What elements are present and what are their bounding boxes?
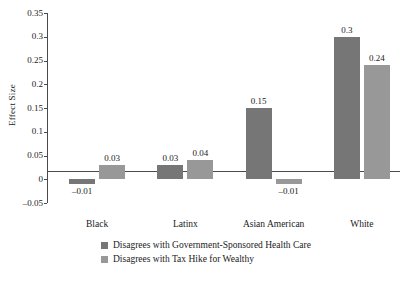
bar-latinx-series2 — [187, 160, 213, 179]
y-axis-tick-mark — [44, 84, 47, 85]
bar-value-label: 0.03 — [90, 154, 134, 163]
legend-swatch-icon — [101, 242, 108, 249]
bar-asian-american-series1 — [246, 108, 272, 179]
y-axis-tick-label: 0 — [7, 175, 43, 184]
y-axis-tick-mark — [44, 179, 47, 180]
y-axis-tick-mark — [44, 132, 47, 133]
y-axis-tick-mark — [44, 108, 47, 109]
bar-value-label: 0.15 — [237, 97, 281, 106]
bar-value-label: –0.01 — [60, 187, 104, 196]
y-axis-tick-mark — [44, 13, 47, 14]
bar-black-series2 — [99, 165, 125, 179]
bar-latinx-series1 — [157, 165, 183, 179]
legend-item: Disagrees with Government-Sponsored Heal… — [101, 238, 311, 252]
bar-chart-figure: Effect Size 0.350.30.250.20.150.10.050–0… — [0, 0, 412, 281]
y-axis-tick-label: 0.35 — [7, 9, 43, 18]
legend-label: Disagrees with Tax Hike for Wealthy — [113, 254, 254, 265]
legend: Disagrees with Government-Sponsored Heal… — [101, 238, 311, 266]
y-axis-tick-label: 0.3 — [7, 32, 43, 41]
y-axis-tick-label: 0.15 — [7, 104, 43, 113]
y-axis-tick-label: 0.2 — [7, 80, 43, 89]
bar-value-label: 0.3 — [325, 26, 369, 35]
plot-area: 0.350.30.250.20.150.10.050–0.05 –0.010.0… — [47, 13, 400, 203]
bar-white-series2 — [364, 65, 390, 179]
bar-value-label: –0.01 — [267, 187, 311, 196]
y-axis-tick-mark — [44, 37, 47, 38]
y-axis-tick-label: –0.05 — [7, 199, 43, 208]
y-axis-tick-label: 0.25 — [7, 56, 43, 65]
y-axis-tick-mark — [44, 203, 47, 204]
bar-value-label: 0.04 — [178, 149, 222, 158]
bar-black-series1 — [69, 179, 95, 184]
y-axis-tick-mark — [44, 156, 47, 157]
bar-asian-american-series2 — [276, 179, 302, 184]
y-axis-tick-mark — [44, 61, 47, 62]
y-axis-tick-label: 0.1 — [7, 127, 43, 136]
legend-label: Disagrees with Government-Sponsored Heal… — [113, 240, 311, 251]
y-axis-line — [47, 13, 48, 203]
y-axis-tick-label: 0.05 — [7, 151, 43, 160]
x-axis-category-label: White — [302, 219, 412, 230]
legend-swatch-icon — [101, 256, 108, 263]
legend-item: Disagrees with Tax Hike for Wealthy — [101, 252, 311, 266]
bar-value-label: 0.24 — [355, 54, 399, 63]
